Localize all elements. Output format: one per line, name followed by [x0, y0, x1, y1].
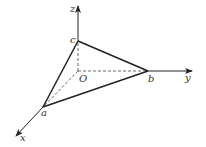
edge-cb: [78, 41, 148, 71]
point-b-label: b: [148, 73, 154, 84]
z-axis-label: z: [69, 3, 76, 14]
y-axis-label: y: [184, 72, 191, 83]
diagram-canvas: z y x c O b a: [0, 0, 206, 147]
point-a-label: a: [41, 107, 47, 118]
x-axis-label: x: [20, 132, 26, 143]
point-c-label: c: [70, 34, 76, 45]
origin-label: O: [79, 73, 87, 84]
